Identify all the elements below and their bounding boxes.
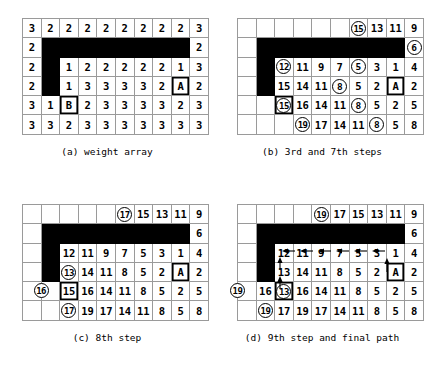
panel-d: 1917151311961211975314131411852A21916131… [215, 186, 429, 372]
grid-row: 1211975314 [23, 243, 209, 262]
cell-obstacle [386, 38, 405, 57]
circled-marker: 19 [314, 207, 329, 222]
cell-empty [23, 301, 42, 320]
cell-obstacle [60, 224, 79, 243]
cell-value: 5 [386, 301, 405, 320]
cell-value: 9 [312, 57, 331, 76]
cell-value: 9 [405, 205, 424, 224]
cell-value: 17 [312, 115, 331, 134]
cell-value: 11 [97, 262, 116, 281]
cell-value: 12 [275, 57, 294, 76]
cell-value: 3 [78, 115, 97, 134]
circled-marker: 12 [276, 59, 291, 74]
grid-row: 1513119 [238, 19, 424, 38]
cell-value: 8 [134, 282, 153, 301]
cell-value: 2 [153, 19, 172, 38]
cell-value: 14 [330, 301, 349, 320]
cell-value: 9 [97, 243, 116, 262]
cell-value: 2 [368, 76, 387, 95]
panel-c-caption: (c) 8th step [0, 332, 214, 343]
cell-obstacle [41, 76, 60, 95]
cell-value: 5 [349, 262, 368, 281]
cell-obstacle [349, 38, 368, 57]
cell-obstacle [115, 224, 134, 243]
figure-sheet: 3222222223222122222132133332A231B2333323… [0, 0, 429, 372]
cell-empty [238, 243, 257, 262]
cell-value: 1 [60, 57, 79, 76]
cell-value: 8 [405, 115, 424, 134]
grid-row: 1211975314 [238, 57, 424, 76]
cell-value: 2 [78, 19, 97, 38]
cell-value: 2 [78, 96, 97, 115]
cell-value: 3 [115, 115, 134, 134]
grid-row: 16151614118525 [23, 282, 209, 301]
cell-empty [78, 205, 97, 224]
cell-value: 15 [134, 205, 153, 224]
grid-row: 151411852A2 [238, 76, 424, 95]
cell-value: 16 [41, 282, 60, 301]
grid-row: 19171411858 [238, 115, 424, 134]
circled-marker: 8 [351, 98, 366, 113]
cell-empty [275, 115, 294, 134]
circled-marker: 8 [332, 79, 347, 94]
circled-marker: 17 [61, 303, 76, 318]
cell-value: 19 [293, 115, 312, 134]
cell-value: 13 [275, 262, 294, 281]
grid-row: 1719171411858 [23, 301, 209, 320]
cell-obstacle [256, 243, 275, 262]
cell-value: 9 [405, 19, 424, 38]
cell-value: 2 [190, 262, 209, 281]
cell-value: 13 [368, 205, 387, 224]
cell-obstacle [256, 38, 275, 57]
cell-value: 1 [60, 76, 79, 95]
grid-row: 2133332A2 [23, 76, 209, 95]
cell-value: 8 [330, 262, 349, 281]
cell-empty [238, 205, 257, 224]
cell-value: 2 [41, 19, 60, 38]
cell-value: 2 [115, 57, 134, 76]
cell-value: 8 [368, 301, 387, 320]
cell-value: 8 [349, 96, 368, 115]
cell-value: 19 [312, 205, 331, 224]
grid-row: 1211975314 [238, 243, 424, 262]
cell-value: 14 [78, 262, 97, 281]
cell-value: 19 [78, 301, 97, 320]
cell-value: 4 [405, 243, 424, 262]
cell-empty [238, 115, 257, 134]
cell-value: 2 [405, 76, 424, 95]
cell-value: 15 [349, 205, 368, 224]
cell-obstacle [275, 38, 294, 57]
cell-empty [330, 19, 349, 38]
grid-row: 212222213 [23, 57, 209, 76]
cell-obstacle [41, 57, 60, 76]
cell-value: 19 [256, 301, 275, 320]
cell-value: 2 [60, 115, 79, 134]
cell-value: 3 [97, 96, 116, 115]
cell-value: 7 [330, 243, 349, 262]
cell-value: 11 [312, 76, 331, 95]
cell-obstacle [368, 38, 387, 57]
cell-empty [238, 224, 257, 243]
cell-value: 11 [349, 115, 368, 134]
cell-value: 2 [23, 76, 42, 95]
cell-value: 2 [153, 76, 172, 95]
cell-empty [293, 19, 312, 38]
cell-value: 13 [275, 282, 294, 301]
cell-obstacle [171, 224, 190, 243]
cell-value: 5 [349, 243, 368, 262]
cell-value: 17 [97, 301, 116, 320]
cell-empty [256, 19, 275, 38]
cell-value: 3 [23, 96, 42, 115]
cell-empty [275, 19, 294, 38]
cell-value: 2 [78, 57, 97, 76]
cell-value: 3 [41, 115, 60, 134]
cell-value: 13 [60, 262, 79, 281]
grid-row: 19171513119 [238, 205, 424, 224]
cell-value: 1 [386, 57, 405, 76]
panel-a: 3222222223222122222132133332A231B2333323… [0, 0, 214, 186]
cell-obstacle [256, 224, 275, 243]
grid-row: 191719171411858 [238, 301, 424, 320]
cell-value: 4 [190, 243, 209, 262]
grid-row: 6 [238, 38, 424, 57]
cell-value: 3 [115, 76, 134, 95]
